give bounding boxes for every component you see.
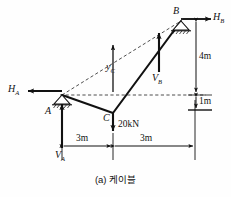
cable-figure: B HB HA A C VB VA yC 20kN 3m 3m 4m 1m (a…: [0, 0, 231, 197]
label-load-20kn: 20kN: [118, 120, 139, 130]
label-force-va: VA: [55, 150, 65, 163]
label-dimension-3m-right: 3m: [140, 134, 152, 144]
support-b-pin: [171, 21, 191, 34]
label-ordinate-yc: yC: [106, 62, 115, 75]
label-node-c: C: [103, 113, 110, 123]
cable-diagram-canvas: [0, 0, 231, 197]
cable-members: [62, 21, 181, 113]
label-force-ha: HA: [8, 84, 19, 97]
label-force-hb: HB: [213, 12, 224, 25]
label-node-a: A: [45, 106, 51, 116]
figure-caption: (a) 케이블: [0, 172, 231, 186]
label-dimension-3m-left: 3m: [76, 134, 88, 144]
label-force-vb: VB: [152, 73, 162, 86]
label-dimension-1m: 1m: [199, 97, 211, 107]
dimension-line-horizontal: [62, 100, 195, 160]
label-dimension-4m: 4m: [199, 52, 211, 62]
label-node-b: B: [173, 6, 179, 16]
chord-ab-dashed: [62, 21, 181, 95]
